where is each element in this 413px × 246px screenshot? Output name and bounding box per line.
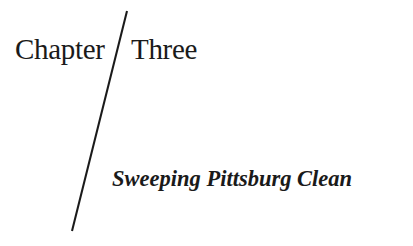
chapter-title-page: Chapter Three Sweeping Pittsburg Clean: [0, 0, 413, 246]
chapter-subtitle: Sweeping Pittsburg Clean: [112, 168, 352, 191]
diagonal-rule: [0, 0, 413, 246]
